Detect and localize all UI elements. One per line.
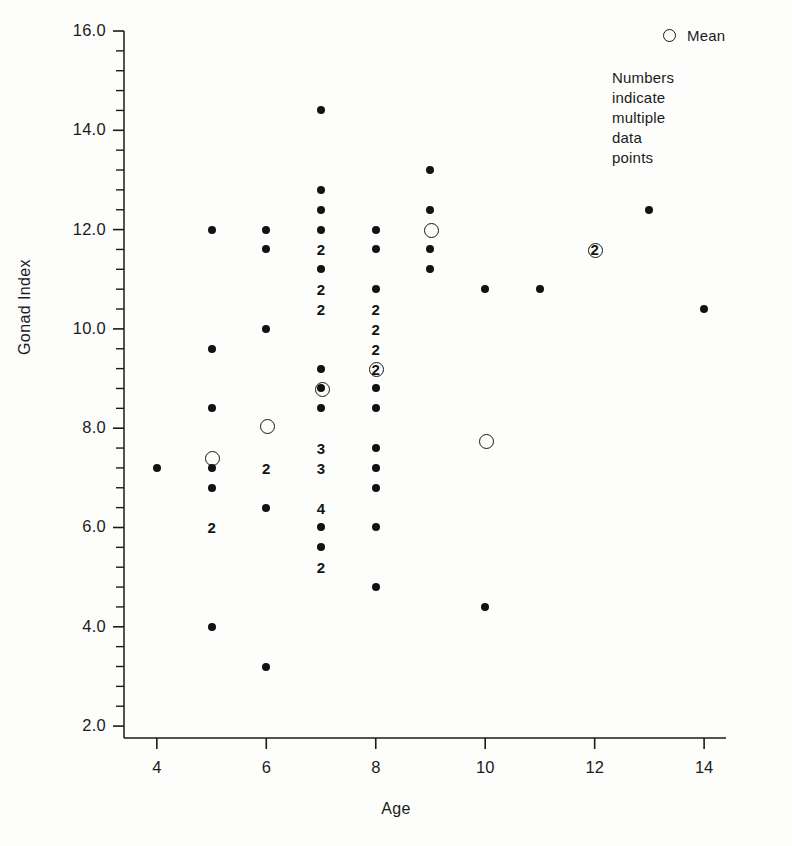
data-point <box>262 504 270 512</box>
data-point <box>372 484 380 492</box>
legend-note: Numbers indicate multiple data points <box>612 68 674 168</box>
multi-count-label: 3 <box>317 441 325 456</box>
data-point <box>372 226 380 234</box>
legend-item-mean: Mean <box>663 27 725 44</box>
x-tick-label: 6 <box>241 758 291 777</box>
y-tick-label: 10.0 <box>73 319 106 338</box>
y-tick-label: 12.0 <box>73 220 106 239</box>
data-point <box>208 404 216 412</box>
x-tick-label: 14 <box>679 758 729 777</box>
multi-count-label: 2 <box>262 460 270 475</box>
data-point <box>208 484 216 492</box>
y-tick-label: 16.0 <box>73 21 106 40</box>
y-tick-label: 2.0 <box>82 716 106 735</box>
data-point <box>153 464 161 472</box>
chart-page: 2.04.06.08.010.012.014.016.0 468101214 2… <box>0 0 792 846</box>
data-point <box>372 583 380 591</box>
x-axis-ticks <box>157 738 704 749</box>
x-tick-label: 4 <box>132 758 182 777</box>
multi-count-label: 2 <box>372 361 380 376</box>
multi-count-label: 3 <box>317 460 325 475</box>
data-point <box>317 226 325 234</box>
data-point <box>372 444 380 452</box>
y-axis-ticks <box>113 31 124 726</box>
data-point <box>262 226 270 234</box>
mean-marker <box>260 419 275 434</box>
mean-marker <box>315 382 330 397</box>
multi-count-label: 2 <box>317 560 325 575</box>
data-point <box>208 623 216 631</box>
multi-count-label: 2 <box>317 302 325 317</box>
y-tick-label: 14.0 <box>73 120 106 139</box>
data-point <box>262 663 270 671</box>
multi-count-label: 2 <box>317 242 325 257</box>
data-point <box>208 226 216 234</box>
multi-count-label: 2 <box>590 242 598 257</box>
y-axis-title: Gonad Index <box>16 259 34 355</box>
data-point <box>317 365 325 373</box>
data-point <box>372 464 380 472</box>
multi-count-label: 2 <box>372 321 380 336</box>
data-point <box>208 345 216 353</box>
mean-marker <box>424 223 439 238</box>
x-tick-label: 12 <box>570 758 620 777</box>
x-axis-title: Age <box>0 800 792 818</box>
y-tick-label: 6.0 <box>82 517 106 536</box>
x-tick-label: 10 <box>460 758 510 777</box>
mean-marker <box>479 434 494 449</box>
multi-count-label: 2 <box>372 302 380 317</box>
x-tick-label: 8 <box>351 758 401 777</box>
multi-count-label: 2 <box>372 341 380 356</box>
multi-count-label: 2 <box>207 520 215 535</box>
open-circle-icon <box>663 29 676 42</box>
multi-count-label: 2 <box>317 282 325 297</box>
y-tick-label: 4.0 <box>82 617 106 636</box>
legend-item-label: Mean <box>687 27 725 44</box>
data-point <box>317 206 325 214</box>
multi-count-label: 4 <box>317 500 325 515</box>
data-point <box>317 186 325 194</box>
y-tick-label: 8.0 <box>82 418 106 437</box>
data-point <box>372 285 380 293</box>
